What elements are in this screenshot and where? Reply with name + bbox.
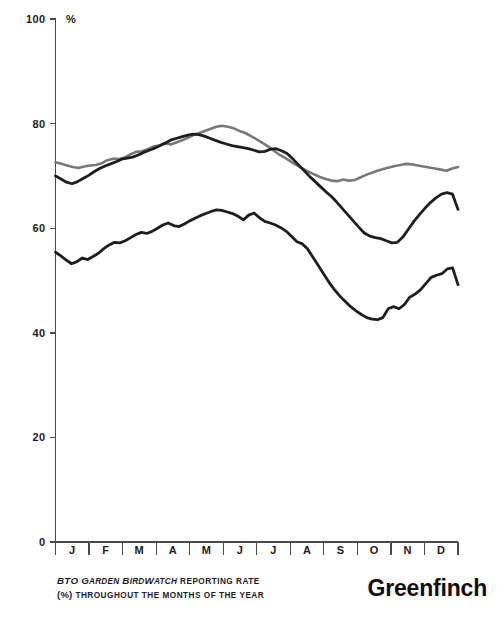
caption-birdwatch: BIRDWATCH <box>122 575 177 586</box>
y-tick-label: 20 <box>32 431 45 443</box>
month-label-july: J <box>270 544 276 556</box>
y-tick-group: 020406080100 <box>26 13 56 548</box>
month-label-march: M <box>135 544 144 556</box>
caption-months-text: THROUGHOUT THE MONTHS OF THE YEAR <box>75 591 264 600</box>
caption-garden: GARDEN <box>81 575 119 586</box>
month-label-november: N <box>404 544 412 556</box>
month-label-february: F <box>102 544 109 556</box>
series-line-upper-grey <box>56 126 459 181</box>
month-label-may: M <box>202 544 211 556</box>
axis-group <box>56 19 459 542</box>
caption-line-1: BTO GARDEN BIRDWATCH REPORTING RATE <box>57 574 264 588</box>
series-line-lower-dark <box>56 210 459 320</box>
chart-plot-area: 020406080100 JFMAMJJASOND % <box>0 0 497 565</box>
month-label-june: J <box>237 544 243 556</box>
y-tick-label: 80 <box>32 118 45 130</box>
month-label-october: O <box>370 544 379 556</box>
month-label-april: A <box>169 544 177 556</box>
y-tick-label: 100 <box>26 13 46 25</box>
y-tick-label: 0 <box>39 536 46 548</box>
y-tick-label: 60 <box>32 222 45 234</box>
percent-axis-label: % <box>66 13 76 25</box>
chart-page: 020406080100 JFMAMJJASOND % BTO GARDEN B… <box>0 0 497 620</box>
month-label-december: D <box>437 544 445 556</box>
chart-caption: BTO GARDEN BIRDWATCH REPORTING RATE (%) … <box>57 574 264 602</box>
series-group <box>56 126 459 320</box>
species-title: Greenfinch <box>368 575 487 602</box>
caption-percent: (%) <box>57 589 73 600</box>
month-label-september: S <box>337 544 345 556</box>
chart-footer: BTO GARDEN BIRDWATCH REPORTING RATE (%) … <box>0 565 497 620</box>
caption-reporting-rate: REPORTING RATE <box>180 577 260 586</box>
caption-line-2: (%) THROUGHOUT THE MONTHS OF THE YEAR <box>57 588 264 602</box>
series-line-middle-dark <box>56 134 459 243</box>
y-tick-label: 40 <box>32 327 45 339</box>
caption-bto: BTO <box>57 575 78 586</box>
month-label-january: J <box>69 544 75 556</box>
month-axis-group: JFMAMJJASOND <box>56 542 459 556</box>
month-label-august: A <box>303 544 311 556</box>
line-chart-svg: 020406080100 JFMAMJJASOND % <box>0 0 497 565</box>
